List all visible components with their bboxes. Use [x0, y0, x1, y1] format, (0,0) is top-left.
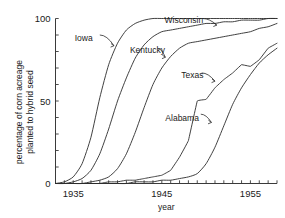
y-axis-title-line1: percentage of corn acreage	[14, 60, 24, 164]
leader-arrowhead-alabama	[208, 120, 211, 124]
y-axis-title-line2: planted to hybrid seed	[25, 70, 35, 154]
series-label-alabama: Alabama	[165, 113, 199, 123]
series-label-texas: Texas	[181, 70, 203, 80]
y-tick-label-0: 0	[45, 178, 50, 189]
series-label-iowa: Iowa	[75, 33, 93, 43]
series-label-kentucky: Kentucky	[130, 45, 166, 55]
series-label-wisconsin: Wisconsin	[164, 15, 203, 25]
leader-arrowhead-iowa	[111, 44, 114, 48]
leader-arrowhead-texas	[212, 79, 215, 83]
x-tick-label-1935: 1935	[63, 188, 84, 199]
x-tick-label-1955: 1955	[240, 188, 261, 199]
x-axis-title: year	[158, 202, 175, 212]
chart-canvas: percentage of corn acreage planted to hy…	[0, 0, 285, 218]
y-tick-label-100: 100	[35, 13, 51, 24]
y-tick-label-50: 50	[40, 96, 51, 107]
series-curve-kentucky	[56, 23, 278, 183]
hybrid-corn-diffusion-chart: percentage of corn acreage planted to hy…	[0, 0, 285, 218]
x-tick-label-1945: 1945	[151, 188, 172, 199]
